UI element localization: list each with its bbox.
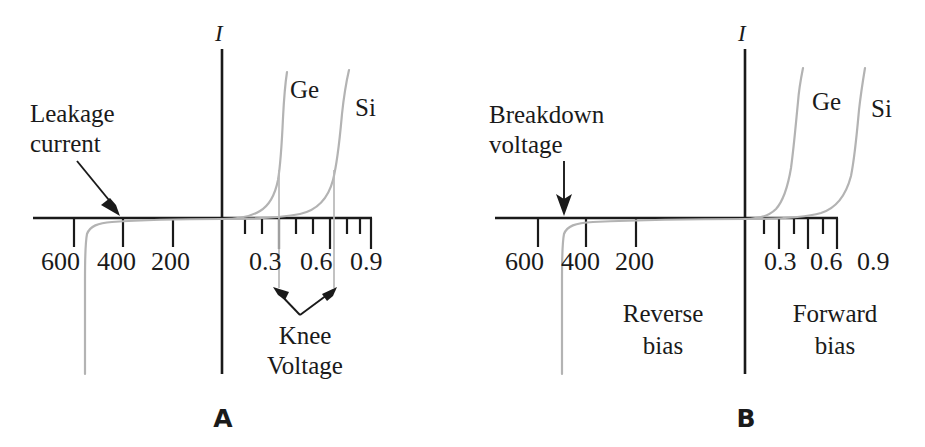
panel-letter-a: A [203,405,243,432]
knee-voltage-label-line1: Knee [260,322,350,349]
knee-arrow-head-left-a [273,287,289,300]
knee-voltage-label-line2: Voltage [255,352,355,379]
tick-label-pos-0.9-b: 0.9 [857,248,890,276]
ge-curve-label-b: Ge [812,88,841,115]
tick-label-pos-0.9-a: 0.9 [350,248,383,276]
panel-a: I Ge Si 600 400 200 0.3 0.6 0.9 Leakage … [0,0,462,447]
si-curve-label-a: Si [355,94,376,121]
tick-label-neg-600-b: 600 [505,248,544,276]
tick-label-pos-0.6-a: 0.6 [300,248,333,276]
leakage-arrow-shaft-a [77,161,113,205]
knee-arrow-head-right-a [322,287,337,301]
leakage-current-label-line2: current [30,130,101,157]
si-curve-b [745,68,865,219]
current-axis-label-a: I [215,22,223,47]
reverse-breakdown-curve-a [85,219,222,374]
tick-label-neg-200-b: 200 [615,248,654,276]
panel-b-plot [463,0,925,447]
tick-label-pos-0.6-b: 0.6 [810,248,843,276]
forward-bias-label-line2: bias [760,332,910,359]
ge-curve-label-a: Ge [290,76,319,103]
leakage-current-label-line1: Leakage [30,100,115,127]
panel-a-plot [0,0,462,447]
ge-curve-b [745,68,803,219]
tick-label-neg-200-a: 200 [151,248,190,276]
tick-label-neg-600-a: 600 [41,248,80,276]
reverse-bias-label-line1: Reverse [588,300,738,327]
tick-label-neg-400-a: 400 [97,248,136,276]
forward-bias-label-line1: Forward [760,300,910,327]
diode-iv-characteristics-figure: I Ge Si 600 400 200 0.3 0.6 0.9 Leakage … [0,0,925,447]
ge-curve-a [222,72,287,219]
panel-letter-b: B [726,405,766,432]
breakdown-voltage-label-line1: Breakdown [489,101,604,128]
tick-label-pos-0.3-b: 0.3 [764,248,797,276]
panel-b: I Ge Si 600 400 200 0.3 0.6 0.9 Breakdow… [463,0,925,447]
tick-label-pos-0.3-a: 0.3 [249,248,282,276]
breakdown-voltage-label-line2: voltage [489,131,563,158]
current-axis-label-b: I [738,22,746,47]
tick-label-neg-400-b: 400 [561,248,600,276]
si-curve-label-b: Si [871,95,892,122]
leakage-arrow-head-a [101,198,120,216]
reverse-bias-label-line2: bias [588,332,738,359]
